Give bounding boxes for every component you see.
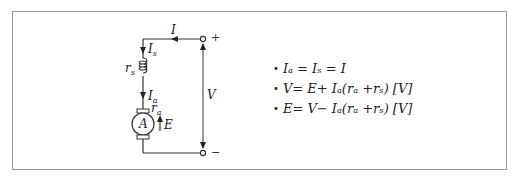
label-positive: + (211, 32, 220, 43)
label-emf: E (164, 119, 173, 131)
series-current-arrow-icon (140, 47, 146, 54)
voltage-arrow-down-icon (200, 142, 206, 149)
label-armature-resistance: ra (151, 102, 162, 117)
positive-terminal-icon (200, 36, 205, 41)
equation-current: •Iₐ = Iₛ = I (273, 59, 412, 79)
label-series-current: Is (148, 43, 157, 58)
armature-current-arrow-icon (140, 92, 146, 99)
label-armature: A (139, 118, 148, 130)
voltage-arrow-up-icon (200, 43, 206, 50)
bottom-brush (137, 135, 149, 139)
label-negative: − (211, 147, 220, 158)
label-voltage: V (207, 89, 216, 101)
equation-emf: •E= V− Iₐ(rₐ +rₛ) [V] (273, 99, 412, 119)
label-total-current: I (171, 24, 176, 36)
negative-terminal-icon (200, 150, 205, 155)
equation-voltage: •V= E+ Iₐ(rₐ +rₛ) [V] (273, 79, 412, 99)
series-field-coil-icon (139, 58, 147, 73)
equation-list: •Iₐ = Iₛ = I •V= E+ Iₐ(rₐ +rₛ) [V] •E= V… (273, 59, 412, 119)
label-series-resistance: rs (125, 62, 135, 77)
series-motor-circuit (0, 0, 514, 178)
